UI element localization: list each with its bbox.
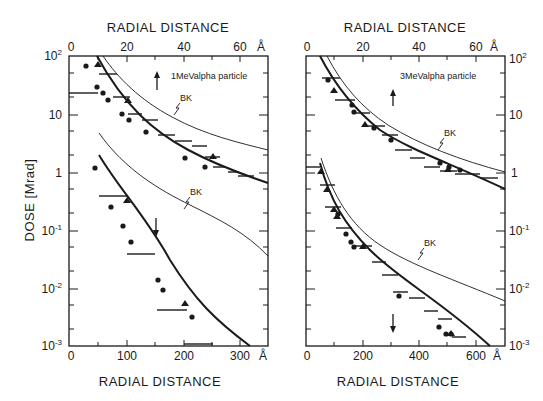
right-top-tick-0: 0 (304, 40, 311, 54)
y-tick-1e-3: 10-3 (42, 338, 63, 353)
left-bottom-ticks (98, 340, 240, 346)
right-down-arrow-icon (390, 314, 396, 333)
left-lower-dots (92, 165, 194, 319)
left-panel: 0 20 40 60 Å 0 100 200 300 Å (42, 39, 268, 363)
y-axis-label: DOSE [Mrad] (22, 159, 37, 242)
right-bottom-xlabel: RADIAL DISTANCE (337, 374, 459, 389)
right-y-tick-1e2: 102 (509, 51, 527, 66)
right-top-xlabel: RADIAL DISTANCE (344, 20, 466, 35)
y-tick-1e-1: 10-1 (42, 223, 63, 238)
left-panel-title: 1MeValpha particle (171, 71, 247, 81)
left-lower-triangles (123, 197, 189, 306)
left-upper-bk-label: BK (180, 93, 192, 103)
left-top-tick-60: 60 (233, 40, 247, 54)
right-upper-bk-pointer (438, 138, 444, 150)
left-upper-bk-pointer (174, 103, 180, 115)
y-tick-10: 10 (49, 108, 63, 122)
right-upper-bars (322, 78, 498, 178)
right-bottom-tick-400: 400 (409, 349, 429, 363)
left-bottom-xlabel: RADIAL DISTANCE (99, 374, 221, 389)
left-top-xlabel: RADIAL DISTANCE (107, 20, 229, 35)
y-tick-1e2: 102 (44, 48, 62, 63)
left-top-angstrom: Å (257, 39, 265, 54)
left-lower-theory-curve (99, 155, 250, 346)
left-top-tick-40: 40 (177, 40, 191, 54)
right-lower-bk-curve (321, 158, 505, 301)
left-bottom-tick-0: 0 (68, 349, 75, 363)
right-lower-bk-label: BK (424, 238, 436, 248)
right-up-arrow-icon (390, 89, 396, 106)
right-top-tick-60: 60 (469, 40, 483, 54)
right-y-tick-1e-2: 10-2 (509, 281, 530, 296)
right-top-ticks (334, 56, 476, 62)
left-bottom-tick-200: 200 (174, 349, 194, 363)
right-bottom-ticks (334, 340, 476, 346)
left-bottom-angstrom: Å (259, 348, 267, 363)
left-bottom-tick-300: 300 (230, 349, 250, 363)
right-lower-theory-curve (320, 163, 490, 346)
right-top-tick-20: 20 (356, 40, 370, 54)
right-top-tick-40: 40 (412, 40, 426, 54)
right-bottom-tick-0: 0 (304, 349, 311, 363)
right-y-tick-1e-1: 10-1 (509, 223, 530, 238)
left-bottom-tick-100: 100 (117, 349, 137, 363)
left-up-arrow-icon (154, 71, 160, 90)
left-top-ticks (98, 56, 240, 62)
right-upper-bk-label: BK (444, 128, 456, 138)
left-top-tick-20: 20 (120, 40, 134, 54)
left-top-tick-0: 0 (68, 40, 75, 54)
left-plot-frame (69, 56, 268, 346)
y-tick-1: 1 (55, 166, 62, 180)
left-y-ticks (69, 73, 268, 329)
right-top-angstrom: Å (490, 39, 498, 54)
right-y-tick-10: 10 (509, 108, 523, 122)
right-bottom-tick-600: 600 (466, 349, 486, 363)
right-y-ticks (306, 73, 505, 329)
left-lower-bk-label: BK (190, 187, 202, 197)
right-y-tick-1e-3: 10-3 (509, 338, 530, 353)
left-lower-bk-curve (99, 133, 268, 256)
right-panel-title: 3MeValpha particle (400, 71, 476, 81)
dose-radial-distance-chart: RADIAL DISTANCE RADIAL DISTANCE RADIAL D… (0, 0, 543, 401)
y-tick-1e-2: 10-2 (42, 281, 63, 296)
right-panel: 0 20 40 60 Å 0 200 400 600 Å (304, 39, 530, 363)
right-lower-bk-pointer (418, 248, 424, 260)
right-bottom-angstrom: Å (493, 348, 501, 363)
right-bottom-tick-200: 200 (353, 349, 373, 363)
right-y-tick-1: 1 (511, 166, 518, 180)
